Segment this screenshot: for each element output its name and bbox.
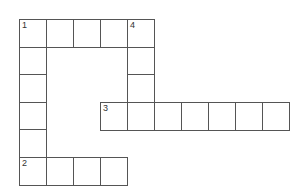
crossword-cell[interactable] [181, 102, 209, 131]
crossword-cell[interactable] [19, 129, 47, 158]
crossword-cell[interactable] [154, 102, 182, 131]
clue-number: 4 [130, 21, 135, 30]
crossword-cell[interactable] [100, 157, 128, 186]
crossword-cell[interactable] [19, 102, 47, 131]
crossword-grid: 1432 [0, 0, 303, 193]
clue-number: 3 [103, 104, 108, 113]
crossword-cell[interactable] [127, 74, 155, 103]
crossword-cell[interactable] [127, 47, 155, 76]
crossword-cell[interactable] [19, 74, 47, 103]
crossword-cell[interactable] [262, 102, 290, 131]
crossword-cell[interactable] [127, 102, 155, 131]
crossword-cell[interactable] [46, 157, 74, 186]
crossword-cell[interactable]: 3 [100, 102, 128, 131]
crossword-cell[interactable]: 1 [19, 19, 47, 48]
crossword-cell[interactable]: 4 [127, 19, 155, 48]
clue-number: 1 [22, 21, 27, 30]
clue-number: 2 [22, 159, 27, 168]
crossword-cell[interactable] [100, 19, 128, 48]
crossword-cell[interactable] [46, 19, 74, 48]
crossword-cell[interactable] [73, 19, 101, 48]
crossword-cell[interactable] [19, 47, 47, 76]
crossword-cell[interactable]: 2 [19, 157, 47, 186]
crossword-cell[interactable] [235, 102, 263, 131]
crossword-cell[interactable] [208, 102, 236, 131]
crossword-cell[interactable] [73, 157, 101, 186]
